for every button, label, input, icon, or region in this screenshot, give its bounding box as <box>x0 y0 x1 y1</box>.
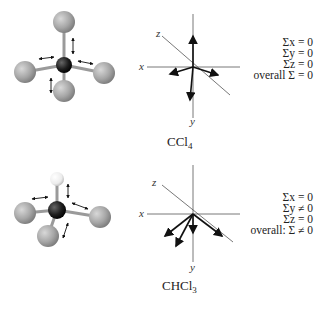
carbon-atom <box>56 57 72 73</box>
hydrogen-atom <box>50 172 64 186</box>
carbon-atom <box>48 201 66 219</box>
x-axis-label: x <box>138 60 144 72</box>
chcl3-formula-label: CHCl3 <box>162 278 197 295</box>
formula-text: CCl <box>167 134 188 149</box>
chlorine-atom-right <box>93 62 115 84</box>
chlorine-atom-top <box>53 11 75 33</box>
z-axis-label: z <box>151 176 157 188</box>
chlorine-atom-bottom <box>37 225 59 247</box>
chcl3-vector-diagram: x y z <box>138 165 240 273</box>
chlorine-atom-left <box>14 61 36 83</box>
chlorine-atom-left <box>14 202 36 224</box>
formula-text: CHCl <box>162 278 192 293</box>
chcl3-sum-equations: Σx = 0 Σy ≠ 0 Σz = 0 overall: Σ ≠ 0 <box>250 192 313 236</box>
z-axis-label: z <box>155 27 161 39</box>
y-axis-label: y <box>189 115 195 127</box>
formula-subscript: 3 <box>192 285 197 295</box>
y-axis-label: y <box>189 261 195 273</box>
x-axis-label: x <box>138 207 144 219</box>
ccl4-vector-diagram: x y z <box>138 14 240 127</box>
equation-overall: overall Σ = 0 <box>254 70 313 81</box>
equation-overall: overall: Σ ≠ 0 <box>250 225 313 236</box>
formula-subscript: 4 <box>188 141 193 151</box>
ccl4-molecule-model <box>14 11 115 102</box>
chcl3-molecule-model <box>14 172 111 247</box>
ccl4-sum-equations: Σx = 0 Σy = 0 Σz = 0 overall Σ = 0 <box>254 37 313 81</box>
chlorine-atom-bottom <box>53 80 75 102</box>
chlorine-atom-right <box>89 206 111 228</box>
ccl4-formula-label: CCl4 <box>167 134 192 151</box>
